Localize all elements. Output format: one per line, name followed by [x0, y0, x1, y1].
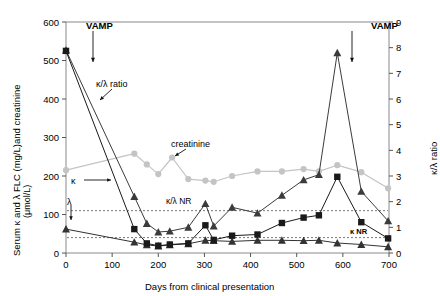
marker-square: [300, 214, 306, 220]
y-right-tick-label: 0: [396, 248, 401, 259]
marker-square: [279, 220, 285, 226]
marker-square: [202, 222, 208, 228]
marker-circle: [144, 161, 150, 167]
marker-circle: [202, 178, 208, 184]
y-left-tick-label: 100: [43, 209, 59, 220]
x-tick-label: 600: [335, 259, 351, 270]
marker-square: [167, 241, 173, 247]
y-left-tick-label: 400: [43, 94, 59, 105]
chart-figure: Serum κ and λ FLC (mg/L)and creatinine (…: [0, 0, 440, 296]
y-right-tick-label: 3: [396, 171, 401, 182]
marker-square: [385, 235, 391, 241]
annotation-creatinine-callout: creatinine: [171, 139, 210, 149]
marker-square: [63, 48, 69, 54]
y-left-tick-label: 200: [43, 171, 59, 182]
y-right-tick-label: 2: [396, 196, 401, 207]
x-tick-label: 500: [289, 259, 305, 270]
marker-circle: [211, 179, 217, 185]
marker-square: [185, 240, 191, 246]
y-right-tick-label: 5: [396, 119, 401, 130]
y-right-tick-label: 6: [396, 94, 401, 105]
marker-circle: [229, 173, 235, 179]
marker-square: [334, 174, 340, 180]
y-right-tick-label: 8: [396, 42, 401, 53]
marker-square: [131, 226, 137, 232]
annotation-kl-nr: κ/λ NR: [166, 196, 192, 206]
x-tick-label: 100: [104, 259, 120, 270]
x-tick-label: 300: [196, 259, 212, 270]
y-left-tick-label: 300: [43, 132, 59, 143]
x-tick-label: 400: [243, 259, 259, 270]
marker-circle: [254, 168, 260, 174]
marker-circle: [131, 151, 137, 157]
marker-square: [144, 240, 150, 246]
marker-circle: [358, 169, 364, 175]
marker-circle: [279, 168, 285, 174]
x-tick-label: 0: [63, 259, 68, 270]
marker-circle: [155, 171, 161, 177]
x-tick-label: 700: [381, 259, 397, 270]
marker-square: [316, 212, 322, 218]
x-tick-label: 200: [150, 259, 166, 270]
marker-circle: [63, 167, 69, 173]
plot-area: 0100200300400500600012345678901002003004…: [0, 0, 440, 296]
annotation-ratio-callout: κ/λ ratio: [96, 79, 128, 89]
annotation-vamp-right: VAMP: [371, 20, 398, 31]
y-left-tick-label: 600: [43, 17, 59, 28]
marker-square: [155, 243, 161, 249]
marker-square: [358, 219, 364, 225]
marker-circle: [334, 162, 340, 168]
marker-square: [229, 233, 235, 239]
marker-square: [211, 237, 217, 243]
y-right-tick-label: 7: [396, 68, 401, 79]
annotation-vamp-left: VAMP: [86, 20, 113, 31]
marker-circle: [169, 154, 175, 160]
plot-frame: [66, 22, 389, 253]
annotation-k-nr: κ NR: [350, 227, 367, 236]
annotation-lambda-callout: λ: [67, 197, 72, 207]
marker-circle: [185, 176, 191, 182]
y-left-tick-label: 500: [43, 55, 59, 66]
y-right-tick-label: 4: [396, 145, 401, 156]
marker-square: [254, 231, 260, 237]
y-right-tick-label: 1: [396, 222, 401, 233]
annotation-kappa-callout: κ: [71, 176, 76, 186]
y-left-tick-label: 0: [54, 248, 59, 259]
marker-circle: [301, 166, 307, 172]
marker-circle: [385, 185, 391, 191]
